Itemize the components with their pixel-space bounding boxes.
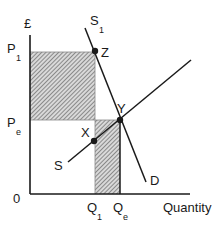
q1-subscript: 1 [97,212,102,222]
supply-demand-diagram: £ 0 Quantity P 1 P e Q 1 Q e S 1 S D Z Y… [0,0,219,230]
s1-curve-subscript: 1 [99,25,104,35]
y-axis-label: £ [24,16,32,31]
s1-curve-label: S [90,13,99,28]
qe-label: Q [113,200,123,215]
z-point-label: Z [101,45,109,60]
p1-label: P [7,41,16,56]
s-curve-label: S [54,158,63,173]
qe-subscript: e [123,212,128,222]
pe-label: P [7,115,16,130]
x-axis-label: Quantity [163,200,212,215]
pe-subscript: e [16,127,21,137]
q1-label: Q [87,200,97,215]
point-z [92,48,98,54]
point-y [117,117,123,123]
shaded-area-price-rectangle [30,52,95,120]
p1-subscript: 1 [16,53,21,63]
y-point-label: Y [117,101,126,116]
d-curve-label: D [150,173,159,188]
point-x [91,138,97,144]
origin-label: 0 [13,191,20,206]
shaded-area-quantity-strip [95,120,120,194]
x-point-label: X [81,125,90,140]
